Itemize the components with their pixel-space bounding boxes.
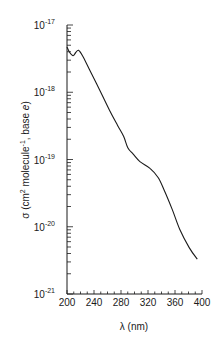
- x-axis-title: λ (nm): [120, 321, 148, 332]
- x-tick-label: 360: [167, 297, 184, 308]
- y-axis-ticks: [67, 25, 73, 294]
- y-tick-label: 10-18: [34, 85, 55, 98]
- y-axis-tick-labels: 10-1710-1810-1910-2010-21: [34, 18, 55, 300]
- cross-section-curve: [67, 47, 197, 259]
- x-tick-label: 400: [194, 297, 211, 308]
- absorption-cross-section-chart: 10-1710-1810-1910-2010-21 20024028032036…: [0, 0, 222, 347]
- x-axis-ticks: [67, 290, 202, 294]
- y-tick-label: 10-20: [34, 220, 55, 233]
- x-tick-label: 240: [86, 297, 103, 308]
- x-tick-label: 280: [113, 297, 130, 308]
- x-tick-label: 200: [59, 297, 76, 308]
- y-tick-label: 10-19: [34, 153, 55, 166]
- x-axis-tick-labels: 200240280320360400: [59, 297, 211, 308]
- y-tick-label: 10-17: [34, 18, 55, 31]
- y-tick-label: 10-21: [34, 287, 55, 300]
- y-axis-title: σ (cm2 molecule-1, base e): [19, 101, 31, 219]
- x-tick-label: 320: [140, 297, 157, 308]
